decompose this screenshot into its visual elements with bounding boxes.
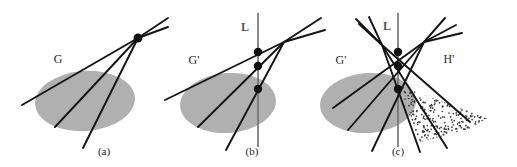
- stipple-dot: [434, 121, 436, 123]
- stipple-dot: [435, 125, 437, 127]
- stipple-dot: [451, 130, 453, 132]
- stipple-dot: [424, 102, 426, 104]
- stipple-dot: [442, 111, 444, 113]
- stipple-dot: [417, 133, 419, 135]
- stipple-dot: [410, 103, 412, 105]
- stipple-dot: [471, 113, 473, 115]
- stipple-dot: [456, 114, 458, 116]
- stipple-dot: [416, 115, 418, 117]
- stipple-dot: [415, 129, 417, 131]
- stipple-dot: [410, 102, 412, 104]
- stipple-dot: [430, 128, 432, 130]
- stipple-dot: [432, 118, 434, 120]
- stipple-dot: [412, 113, 414, 115]
- stipple-dot: [434, 133, 436, 135]
- stipple-dot: [411, 99, 413, 101]
- stipple-dot: [414, 100, 416, 102]
- set-label-Gprime: G': [336, 53, 347, 67]
- stipple-dot: [413, 122, 415, 124]
- stipple-dot: [441, 131, 443, 133]
- stipple-dot: [427, 135, 429, 137]
- stipple-dot: [461, 109, 463, 111]
- stipple-dot: [408, 98, 410, 100]
- stipple-dot: [442, 116, 444, 118]
- stipple-dot: [460, 125, 462, 127]
- stipple-dot: [442, 133, 444, 135]
- stipple-dot: [448, 128, 450, 130]
- stipple-dot: [468, 117, 470, 119]
- stipple-dot: [434, 109, 436, 111]
- stipple-dot: [478, 117, 480, 119]
- stipple-dot: [444, 127, 446, 129]
- stipple-dot: [404, 98, 406, 100]
- stipple-dot: [445, 128, 447, 130]
- stipple-dot: [422, 131, 424, 133]
- stipple-dot: [427, 125, 429, 127]
- stipple-dot: [471, 119, 473, 121]
- point-group-a: [134, 34, 143, 43]
- stipple-dot: [434, 104, 436, 106]
- stipple-dot: [404, 91, 406, 93]
- stipple-dot: [423, 116, 425, 118]
- figure-container: G (a) G'L (b) G'H'L (c): [0, 0, 517, 167]
- stipple-dot: [455, 128, 457, 130]
- stipple-dot: [412, 119, 414, 121]
- stipple-dot: [416, 110, 418, 112]
- stipple-dot: [412, 105, 414, 107]
- stipple-dot: [428, 115, 430, 117]
- stipple-dot: [417, 123, 419, 125]
- stipple-dot: [477, 115, 479, 117]
- stipple-dot: [443, 131, 445, 133]
- intersection-point: [254, 48, 262, 56]
- stipple-dot: [410, 112, 412, 114]
- stipple-dot: [444, 122, 446, 124]
- intersection-point: [134, 34, 143, 43]
- stipple-dot: [446, 132, 448, 134]
- stipple-dot: [408, 105, 410, 107]
- stipple-dot: [478, 120, 480, 122]
- stipple-dot: [430, 107, 432, 109]
- set-label-Gprime: G': [189, 53, 200, 67]
- intersection-point: [254, 62, 262, 70]
- stipple-dot: [457, 123, 459, 125]
- stipple-dot: [421, 136, 423, 138]
- stipple-dot: [436, 127, 438, 129]
- stipple-dot: [423, 126, 425, 128]
- stipple-dot: [439, 102, 441, 104]
- intersection-point: [394, 85, 402, 93]
- stipple-dot: [462, 121, 464, 123]
- stipple-dot: [412, 111, 414, 113]
- stipple-dot: [446, 105, 448, 107]
- stipple-dot: [419, 139, 421, 141]
- stipple-dot: [417, 122, 419, 124]
- stipple-dot: [442, 106, 444, 108]
- stipple-dot: [440, 126, 442, 128]
- intersection-point: [254, 85, 262, 93]
- stipple-dot: [450, 116, 452, 118]
- stipple-dot: [425, 129, 427, 131]
- stipple-dot: [432, 120, 434, 122]
- stipple-dot: [411, 96, 413, 98]
- line-label-L: L: [241, 20, 249, 34]
- stipple-dot: [407, 95, 409, 97]
- stipple-dot: [420, 99, 422, 101]
- stipple-dot: [438, 115, 440, 117]
- stipple-dot: [414, 119, 416, 121]
- stipple-dot: [434, 102, 436, 104]
- stipple-dot: [443, 116, 445, 118]
- stipple-dot: [435, 134, 437, 136]
- stipple-dot: [456, 131, 458, 133]
- stipple-dot: [430, 110, 432, 112]
- stipple-dot: [440, 117, 442, 119]
- stipple-dot: [474, 116, 476, 118]
- stipple-dot: [451, 126, 453, 128]
- stipple-dot: [460, 118, 462, 120]
- stipple-dot: [463, 128, 465, 130]
- stipple-dot: [429, 131, 431, 133]
- stipple-dot: [419, 97, 421, 99]
- stipple-dot: [470, 116, 472, 118]
- set-label-Hprime: H': [444, 52, 455, 66]
- stipple-dot: [466, 111, 468, 113]
- stipple-dot: [432, 107, 434, 109]
- stipple-dot: [427, 129, 429, 131]
